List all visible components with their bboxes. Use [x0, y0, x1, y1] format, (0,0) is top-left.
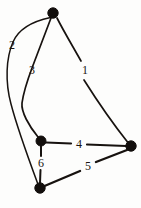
edge-5-path-right: [96, 150, 127, 162]
edge-label-5: 5: [85, 160, 91, 172]
graph-node-d[interactable]: [126, 141, 136, 151]
edge-label-1: 1: [82, 64, 88, 76]
edge-label-3: 3: [29, 64, 35, 76]
edge-label-4: 4: [76, 138, 82, 150]
edge-6-path-lower: [40, 170, 41, 183]
graph-canvas: [0, 0, 141, 208]
edge-1-path-lower: [84, 80, 128, 142]
graph-node-c[interactable]: [35, 183, 45, 193]
edge-label-2: 2: [9, 39, 15, 51]
edge-3-path: [22, 18, 51, 137]
edge-4-path-right: [87, 145, 126, 147]
graph-node-b[interactable]: [36, 136, 46, 146]
edge-4-path-left: [46, 143, 71, 144]
graph-diagram: 2 3 1 4 6 5: [0, 0, 141, 208]
graph-node-a[interactable]: [48, 8, 58, 18]
edge-5-path-left: [45, 171, 81, 186]
edge-1-path-upper: [57, 18, 81, 61]
edge-label-6: 6: [38, 157, 44, 169]
